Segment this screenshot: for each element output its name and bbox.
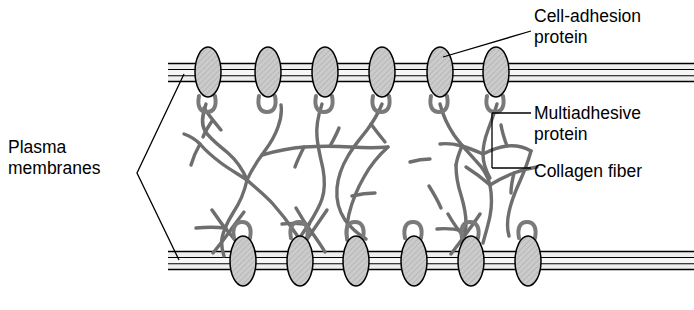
fiber-network bbox=[184, 104, 537, 256]
label-cell-adhesion-protein: Cell-adhesion protein bbox=[534, 6, 641, 48]
figure-root: Cell-adhesion protein Multiadhesive prot… bbox=[0, 0, 694, 310]
label-multiadhesive-protein: Multiadhesive protein bbox=[534, 103, 641, 145]
protein-tail-hooks-top bbox=[198, 96, 503, 112]
protein-tail-hooks-bottom bbox=[233, 222, 535, 238]
label-plasma-membranes: Plasma membranes bbox=[8, 137, 100, 179]
label-collagen-fiber: Collagen fiber bbox=[534, 161, 642, 182]
leader-bracket-plasma-membranes bbox=[137, 74, 184, 260]
